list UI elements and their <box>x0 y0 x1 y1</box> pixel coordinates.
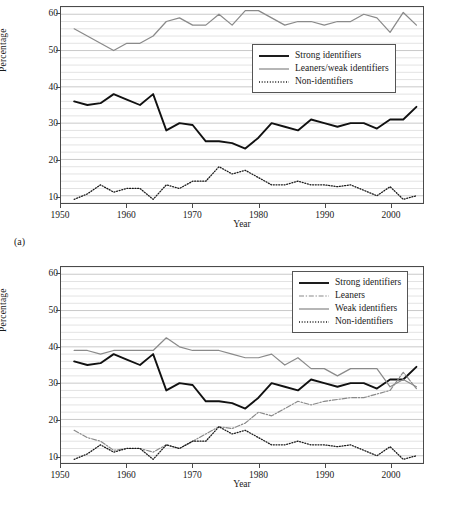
legend-swatch-icon <box>298 291 330 301</box>
chart-b: Percentage 102030405060 1950196019701980… <box>0 260 450 492</box>
chart-a: Percentage 102030405060 1950196019701980… <box>0 0 450 232</box>
y-tick-mark <box>56 347 61 348</box>
legend-swatch-icon <box>258 64 290 74</box>
x-tick-mark <box>126 204 127 208</box>
x-tick-mark <box>60 204 61 208</box>
y-tick-mark <box>56 273 61 274</box>
legend-label: Weak identifiers <box>335 303 397 314</box>
x-tick-mark <box>391 204 392 208</box>
legend-label: Strong identifiers <box>335 277 401 288</box>
legend-b: Strong identifiersLeanersWeak identifier… <box>292 271 408 333</box>
y-axis-label-a: Percentage <box>0 28 8 72</box>
series-line-0 <box>74 94 416 148</box>
chart-panel-a: Percentage 102030405060 1950196019701980… <box>0 0 450 260</box>
x-tick-mark <box>325 464 326 468</box>
y-tick-label: 60 <box>32 268 58 278</box>
legend-swatch-icon <box>298 304 330 314</box>
legend-entry: Strong identifiers <box>298 276 401 289</box>
legend-label: Non-identifiers <box>335 316 393 327</box>
x-tick-mark <box>325 204 326 208</box>
y-tick-label: 10 <box>32 192 58 202</box>
legend-entry: Non-identifiers <box>298 315 401 328</box>
y-tick-mark <box>56 310 61 311</box>
y-tick-mark <box>56 420 61 421</box>
x-tick-mark <box>391 464 392 468</box>
y-tick-label: 20 <box>32 155 58 165</box>
legend-entry: Leaners <box>298 289 401 302</box>
x-axis-label-a: Year <box>60 219 424 229</box>
series-line-2 <box>74 338 416 387</box>
y-tick-mark <box>56 50 61 51</box>
x-tick-mark <box>192 204 193 208</box>
legend-label: Strong identifiers <box>295 50 361 61</box>
y-tick-label: 60 <box>32 8 58 18</box>
y-tick-mark <box>56 13 61 14</box>
y-axis-ticks-a: 102030405060 <box>28 6 58 204</box>
x-axis-label-b: Year <box>60 479 424 489</box>
series-line-3 <box>74 427 416 460</box>
legend-swatch-icon <box>298 317 330 327</box>
y-tick-mark <box>56 457 61 458</box>
x-tick-mark <box>259 204 260 208</box>
y-tick-label: 30 <box>32 378 58 388</box>
data-series-a <box>61 7 423 203</box>
y-tick-mark <box>56 160 61 161</box>
legend-entry: Leaners/weak identifiers <box>258 62 389 75</box>
y-tick-label: 40 <box>32 82 58 92</box>
chart-panel-b: Percentage 102030405060 1950196019701980… <box>0 260 450 519</box>
y-tick-label: 10 <box>32 452 58 462</box>
legend-a: Strong identifiersLeaners/weak identifie… <box>252 44 396 93</box>
legend-label: Leaners/weak identifiers <box>295 63 389 74</box>
y-tick-label: 50 <box>32 45 58 55</box>
x-tick-mark <box>126 464 127 468</box>
y-tick-mark <box>56 87 61 88</box>
plot-area-a <box>60 6 424 204</box>
y-axis-label-b: Percentage <box>0 288 8 332</box>
x-tick-mark <box>60 464 61 468</box>
legend-swatch-icon <box>258 77 290 87</box>
y-tick-label: 50 <box>32 305 58 315</box>
legend-entry: Weak identifiers <box>298 302 401 315</box>
y-tick-mark <box>56 123 61 124</box>
legend-label: Leaners <box>335 290 365 301</box>
series-line-2 <box>74 167 416 200</box>
y-tick-mark <box>56 383 61 384</box>
y-tick-mark <box>56 197 61 198</box>
y-axis-ticks-b: 102030405060 <box>28 266 58 464</box>
y-tick-label: 20 <box>32 415 58 425</box>
legend-swatch-icon <box>258 51 290 61</box>
legend-label: Non-identifiers <box>295 76 353 87</box>
legend-entry: Strong identifiers <box>258 49 389 62</box>
panel-tag-a: (a) <box>14 236 25 247</box>
x-tick-mark <box>259 464 260 468</box>
x-tick-mark <box>192 464 193 468</box>
legend-swatch-icon <box>298 278 330 288</box>
y-tick-label: 30 <box>32 118 58 128</box>
legend-entry: Non-identifiers <box>258 75 389 88</box>
y-tick-label: 40 <box>32 342 58 352</box>
series-line-0 <box>74 354 416 408</box>
